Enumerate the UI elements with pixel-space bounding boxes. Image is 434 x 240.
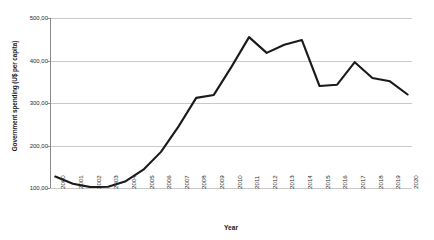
x-axis-tick-label: 2016 [340,159,349,189]
y-axis-tick-labels: 100,00200,00300,00400,00500,00 [12,0,48,240]
x-axis-tick-label: 2008 [199,159,208,189]
x-axis-tick-label: 2004 [129,159,138,189]
x-axis-tick-label: 2013 [287,159,296,189]
x-axis-tick-labels: 2000200120022003200420052006200720082009… [50,189,412,223]
x-axis-tick-label: 2009 [217,159,226,189]
x-axis-tick-label: 2017 [358,159,367,189]
line-chart: Government spending (U$ per capita) 100,… [0,0,434,240]
y-axis-tick-label: 500,00 [14,14,48,22]
x-axis-tick-label: 2019 [393,159,402,189]
x-axis-tick-label: 2001 [76,159,85,189]
x-axis-tick-label: 2002 [94,159,103,189]
x-axis-title: Year [50,224,412,231]
x-axis-tick-label: 2015 [323,159,332,189]
x-axis-tick-label: 2018 [376,159,385,189]
x-axis-tick-label: 2012 [270,159,279,189]
x-axis-tick-label: 2020 [411,159,420,189]
y-axis-tick-label: 100,00 [14,184,48,192]
x-axis-tick-label: 2006 [164,159,173,189]
y-axis-tick-label: 400,00 [14,57,48,65]
y-axis-tick-label: 300,00 [14,99,48,107]
x-axis-tick-label: 2003 [111,159,120,189]
x-axis-tick-label: 2011 [252,159,261,189]
x-axis-tick-label: 2005 [147,159,156,189]
x-axis-tick-label: 2000 [58,159,67,189]
y-axis-tick-label: 200,00 [14,142,48,150]
x-axis-tick-label: 2007 [182,159,191,189]
x-axis-tick-label: 2014 [305,159,314,189]
x-axis-tick-label: 2010 [235,159,244,189]
